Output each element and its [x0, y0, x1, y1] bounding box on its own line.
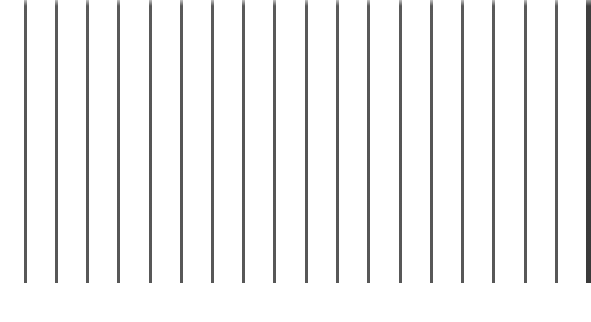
vertical-bar — [367, 0, 370, 283]
vertical-bar — [242, 0, 245, 283]
vertical-bar — [180, 0, 183, 283]
vertical-bar — [305, 0, 308, 283]
vertical-bar — [461, 0, 464, 283]
vertical-bar — [24, 0, 27, 283]
vertical-bar — [586, 0, 591, 283]
vertical-bar — [273, 0, 276, 283]
vertical-bar — [492, 0, 495, 283]
vertical-bar — [149, 0, 152, 283]
vertical-bar — [211, 0, 214, 283]
vertical-bar — [55, 0, 58, 283]
vertical-bar — [117, 0, 120, 283]
vertical-bar — [399, 0, 402, 283]
vertical-bar — [336, 0, 339, 283]
vertical-bar — [555, 0, 558, 283]
vertical-bar — [524, 0, 527, 283]
vertical-bar — [86, 0, 89, 283]
vertical-bar — [430, 0, 433, 283]
